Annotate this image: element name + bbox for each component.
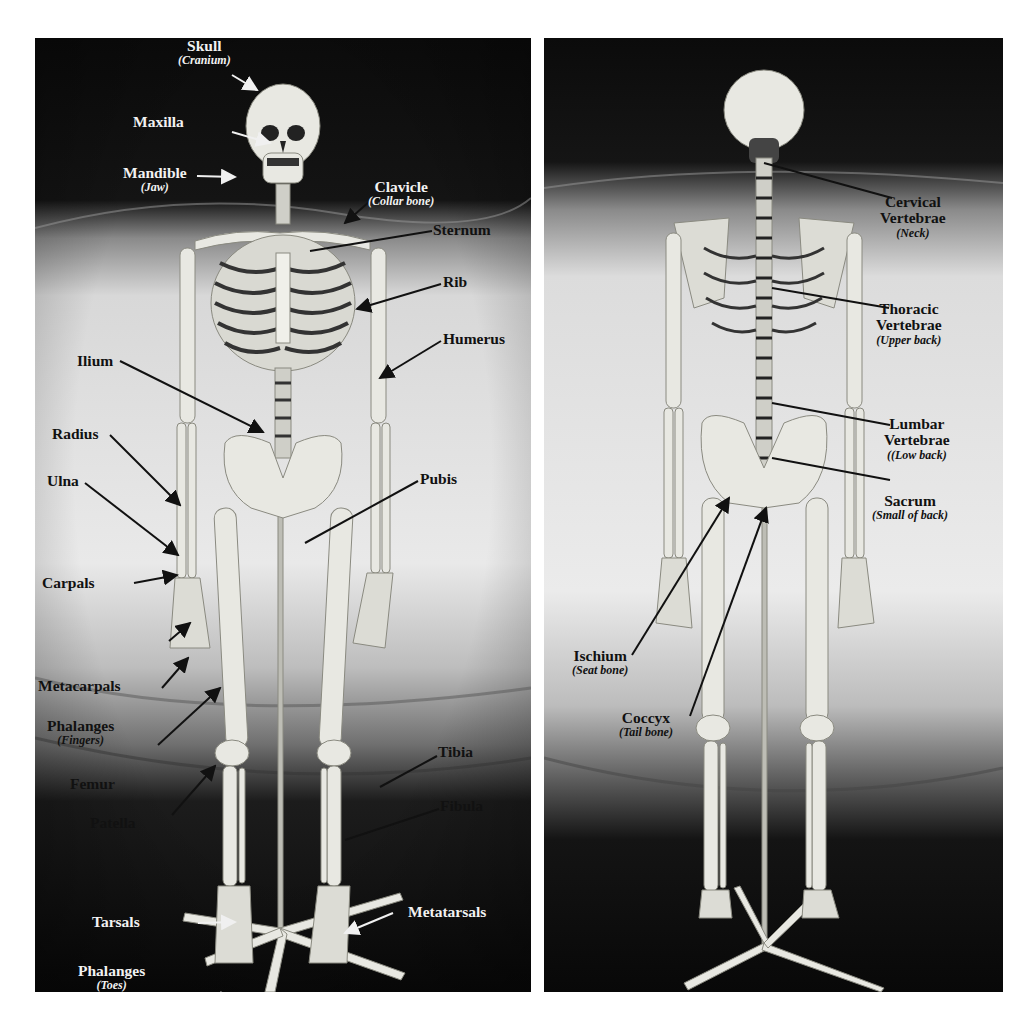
label-metatarsals: Metatarsals <box>408 904 486 920</box>
label-patella: Patella <box>90 815 136 831</box>
label-sternum: Sternum <box>433 222 491 238</box>
label-ischium: Ischium (Seat bone) <box>572 648 628 677</box>
anterior-skeleton-panel: Skull (Cranium) Maxilla Mandible (Jaw) C… <box>35 38 531 992</box>
label-phalanges-fingers: Phalanges (Fingers) <box>47 718 114 747</box>
label-tarsals: Tarsals <box>92 914 140 930</box>
label-ulna: Ulna <box>47 473 79 489</box>
label-phalanges-toes: Phalanges (Toes) <box>78 963 145 992</box>
label-lumbar-vertebrae: Lumbar Vertebrae ((Low back) <box>884 416 950 461</box>
label-skull: Skull (Cranium) <box>178 38 231 67</box>
label-rib: Rib <box>443 274 467 290</box>
label-metacarpals: Metacarpals <box>38 678 121 694</box>
label-coccyx: Coccyx (Tail bone) <box>619 710 673 739</box>
label-tibia: Tibia <box>438 744 473 760</box>
label-mandible: Mandible (Jaw) <box>123 165 187 194</box>
posterior-skeleton-panel: Cervical Vertebrae (Neck) Thoracic Verte… <box>544 38 1003 992</box>
label-ilium: Ilium <box>77 353 113 369</box>
label-maxilla: Maxilla <box>133 114 184 130</box>
label-fibula: Fibula <box>440 798 483 814</box>
label-femur: Femur <box>70 776 115 792</box>
label-clavicle: Clavicle (Collar bone) <box>368 179 434 208</box>
label-thoracic-vertebrae: Thoracic Vertebrae (Upper back) <box>876 301 942 346</box>
label-humerus: Humerus <box>443 331 505 347</box>
label-radius: Radius <box>52 426 99 442</box>
label-carpals: Carpals <box>42 575 95 591</box>
label-cervical-vertebrae: Cervical Vertebrae (Neck) <box>880 194 946 239</box>
label-pubis: Pubis <box>420 471 457 487</box>
anterior-skeleton-photo <box>35 38 531 992</box>
label-sacrum: Sacrum (Small of back) <box>872 493 948 522</box>
